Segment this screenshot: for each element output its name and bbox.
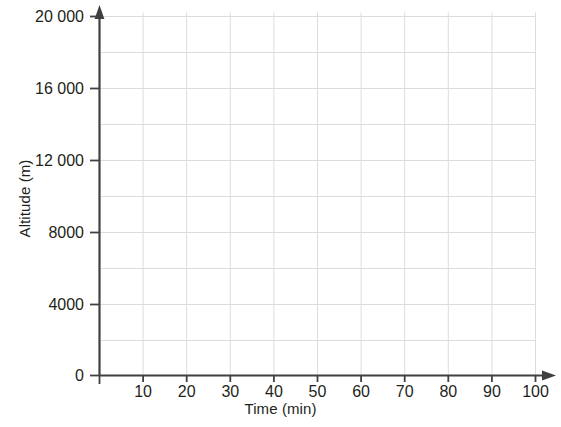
y-tick-label-20000: 20 000 bbox=[16, 8, 84, 26]
y-tick-label-4000: 4000 bbox=[24, 296, 84, 314]
y-tick-label-0: 0 bbox=[24, 367, 84, 385]
gridlines-vertical bbox=[143, 13, 535, 377]
y-tick-label-16000: 16 000 bbox=[16, 80, 84, 98]
y-axis-ticks bbox=[90, 17, 100, 376]
chart-canvas bbox=[0, 0, 561, 427]
altitude-time-graph: 0 4000 8000 12 000 16 000 20 000 10 20 3… bbox=[0, 0, 561, 427]
y-tick-label-8000: 8000 bbox=[24, 224, 84, 242]
x-tick-label-50: 50 bbox=[309, 383, 327, 401]
x-tick-label-30: 30 bbox=[221, 383, 239, 401]
x-axis-arrowhead bbox=[542, 371, 556, 381]
x-tick-label-20: 20 bbox=[178, 383, 196, 401]
x-tick-label-10: 10 bbox=[134, 383, 152, 401]
x-tick-label-100: 100 bbox=[522, 383, 549, 401]
x-axis-title: Time (min) bbox=[0, 400, 561, 417]
x-tick-label-40: 40 bbox=[265, 383, 283, 401]
x-tick-label-70: 70 bbox=[396, 383, 414, 401]
x-tick-label-90: 90 bbox=[483, 383, 501, 401]
x-tick-label-60: 60 bbox=[352, 383, 370, 401]
y-axis-title: Altitude (m) bbox=[16, 129, 33, 269]
x-tick-label-80: 80 bbox=[439, 383, 457, 401]
